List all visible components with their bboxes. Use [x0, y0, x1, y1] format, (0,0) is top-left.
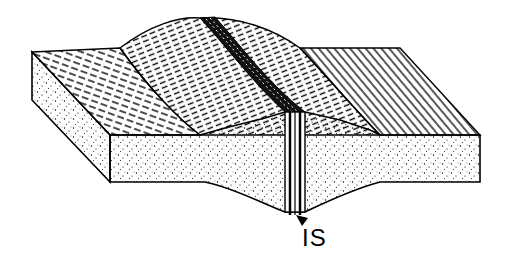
dike-vertical [285, 112, 305, 215]
block-diagram [0, 0, 510, 278]
dike-label: IS [302, 224, 327, 252]
